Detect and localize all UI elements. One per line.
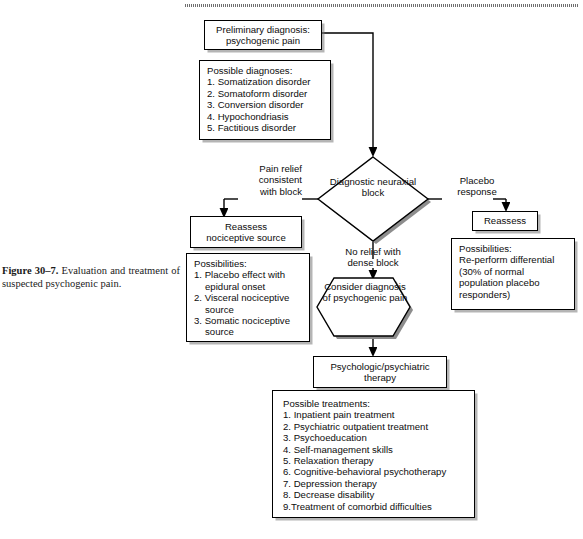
preliminary-line-1: Preliminary diagnosis: xyxy=(216,24,310,35)
therapy-line-2: therapy xyxy=(364,372,396,383)
possibilities-left-item-2: 2. Visceral nociceptive xyxy=(194,292,303,303)
node-reassess-nociceptive-source: Reassess nociceptive source xyxy=(190,216,302,248)
node-possibilities-left: Possibilities: 1. Placebo effect with ep… xyxy=(186,253,310,342)
reassess-nociceptive-line-1: Reassess xyxy=(225,221,267,232)
reassess-right-label: Reassess xyxy=(484,215,526,226)
possible-diagnoses-item-4: 4. Hypochondriasis xyxy=(207,111,324,122)
possibilities-left-item-3: 3. Somatic nociceptive xyxy=(194,315,303,326)
placebo-line-1: Placebo xyxy=(446,175,508,186)
pain-relief-line-2: consistent xyxy=(212,174,302,185)
possible-diagnoses-item-1: 1. Somatization disorder xyxy=(207,76,324,87)
node-preliminary-diagnosis: Preliminary diagnosis: psychogenic pain xyxy=(204,20,322,50)
preliminary-line-2: psychogenic pain xyxy=(226,35,300,46)
possible-treatments-item-9: 9.Treatment of comorbid difficulties xyxy=(283,501,468,512)
therapy-line-1: Psychologic/psychiatric xyxy=(330,361,429,372)
possible-treatments-item-6: 6. Cognitive-behavioral psychotherapy xyxy=(283,466,468,477)
possible-treatments-item-1: 1. Inpatient pain treatment xyxy=(283,409,468,420)
possibilities-left-item-3-cont: source xyxy=(194,326,303,337)
possible-treatments-item-8: 8. Decrease disability xyxy=(283,489,468,500)
possible-diagnoses-heading: Possible diagnoses: xyxy=(207,65,324,76)
possible-diagnoses-item-5: 5. Factitious disorder xyxy=(207,122,324,133)
possible-treatments-item-4: 4. Self-management skills xyxy=(283,444,468,455)
possibilities-left-item-2-cont: source xyxy=(194,304,303,315)
node-possible-treatments: Possible treatments: 1. Inpatient pain t… xyxy=(272,390,475,518)
possibilities-right-item-2: (30% of normal xyxy=(459,266,568,277)
node-consider-diagnosis-shape xyxy=(316,274,420,344)
node-possibilities-right: Possibilities: Re-perform differential (… xyxy=(451,238,575,310)
placebo-line-2: response xyxy=(446,186,508,197)
page-divider-dotted-rule xyxy=(185,4,578,7)
node-possible-diagnoses: Possible diagnoses: 1. Somatization diso… xyxy=(199,60,331,140)
possible-treatments-item-7: 7. Depression therapy xyxy=(283,478,468,489)
figure-caption: Figure 30–7. Evaluation and treatment of… xyxy=(2,265,180,290)
possibilities-right-item-3: population placebo xyxy=(459,277,568,288)
figure-page: Figure 30–7. Evaluation and treatment of… xyxy=(0,0,583,539)
possible-treatments-item-2: 2. Psychiatric outpatient treatment xyxy=(283,421,468,432)
possibilities-left-item-1-cont: epidural onset xyxy=(194,281,303,292)
no-relief-line-2: dense block xyxy=(327,257,419,268)
node-diagnostic-neuraxial-block-shape xyxy=(314,153,436,249)
possible-diagnoses-item-2: 2. Somatoform disorder xyxy=(207,88,324,99)
no-relief-line-1: No relief with xyxy=(327,246,419,257)
possibilities-right-heading: Possibilities: xyxy=(459,243,568,254)
possible-treatments-item-5: 5. Relaxation therapy xyxy=(283,455,468,466)
figure-caption-label: Figure 30–7. xyxy=(2,265,58,276)
possibilities-left-item-1: 1. Placebo effect with xyxy=(194,269,303,280)
pain-relief-line-3: with block xyxy=(212,186,302,197)
reassess-nociceptive-line-2: nociceptive source xyxy=(206,232,285,243)
edge-label-pain-relief: Pain relief consistent with block xyxy=(212,163,302,197)
node-reassess-right: Reassess xyxy=(472,211,538,231)
possible-diagnoses-item-3: 3. Conversion disorder xyxy=(207,99,324,110)
possibilities-right-item-4: responders) xyxy=(459,289,568,300)
possibilities-right-item-1: Re-perform differential xyxy=(459,254,568,265)
possibilities-left-heading: Possibilities: xyxy=(194,258,303,269)
possible-treatments-item-3: 3. Psychoeducation xyxy=(283,432,468,443)
possible-treatments-heading: Possible treatments: xyxy=(283,398,468,409)
edge-label-no-relief: No relief with dense block xyxy=(327,246,419,269)
edge-label-placebo-response: Placebo response xyxy=(446,175,508,198)
pain-relief-line-1: Pain relief xyxy=(212,163,302,174)
node-psychologic-psychiatric-therapy: Psychologic/psychiatric therapy xyxy=(313,356,447,388)
